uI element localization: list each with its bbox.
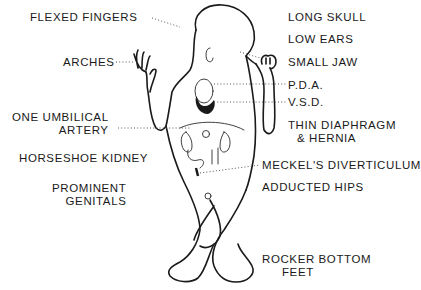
right-arm-outline — [256, 64, 275, 134]
label-text: SMALL JAW — [288, 56, 358, 69]
right-torso-outline — [246, 56, 256, 190]
meckels-diverticulum-mark — [196, 168, 198, 176]
leader-small-jaw — [240, 52, 260, 58]
diaphragm-line — [180, 122, 244, 130]
label-text: FEET — [262, 266, 371, 279]
label-text: ROCKER BOTTOM — [262, 253, 371, 266]
right-fist-flexed — [261, 55, 276, 68]
label-rocker-bottom-feet: ROCKER BOTTOM FEET — [262, 253, 371, 279]
label-text: HORSESHOE KIDNEY — [19, 152, 148, 165]
label-text: ONE UMBILICAL — [12, 111, 109, 124]
label-flexed-fingers: FLEXED FINGERS — [30, 11, 137, 24]
label-text: V.S.D. — [288, 96, 324, 109]
umbilicus — [203, 131, 210, 138]
label-text: ARCHES — [63, 56, 115, 69]
label-text: THIN DIAPHRAGM — [288, 119, 396, 132]
ear-drawing — [206, 48, 213, 62]
label-thin-diaphragm-hernia: THIN DIAPHRAGM & HERNIA — [288, 119, 396, 145]
label-one-umbilical-artery: ONE UMBILICAL ARTERY — [12, 111, 109, 137]
label-text: ARTERY — [12, 124, 109, 137]
intestine-loops — [188, 148, 218, 168]
label-text: & HERNIA — [288, 132, 396, 145]
label-text: P.D.A. — [288, 79, 323, 92]
heart-shaded-ventricle — [196, 96, 215, 114]
kidney-left — [181, 132, 192, 152]
label-prominent-genitals: PROMINENT GENITALS — [52, 182, 126, 208]
label-text: PROMINENT — [52, 182, 126, 195]
head-outline — [195, 5, 256, 64]
kidney-right — [220, 132, 230, 152]
label-text: FLEXED FINGERS — [30, 11, 137, 24]
leader-flexed-fingers — [152, 18, 180, 27]
label-vsd: V.S.D. — [288, 96, 324, 109]
label-long-skull: LONG SKULL — [288, 11, 366, 24]
left-hand-open — [134, 50, 156, 92]
label-text: MECKEL'S DIVERTICULUM — [262, 159, 421, 172]
label-arches: ARCHES — [63, 56, 115, 69]
right-leg-outline — [213, 190, 253, 282]
label-text: LONG SKULL — [288, 11, 366, 24]
genitals-drawing — [205, 193, 211, 199]
label-horseshoe-kidney: HORSESHOE KIDNEY — [19, 152, 148, 165]
label-text: LOW EARS — [288, 33, 354, 46]
label-text: GENITALS — [52, 195, 126, 208]
label-adducted-hips: ADDUCTED HIPS — [262, 181, 364, 194]
label-pda: P.D.A. — [288, 79, 323, 92]
label-meckels-diverticulum: MECKEL'S DIVERTICULUM — [262, 159, 421, 172]
label-low-ears: LOW EARS — [288, 33, 354, 46]
label-small-jaw: SMALL JAW — [288, 56, 358, 69]
left-leg-outline — [166, 126, 214, 282]
label-text: ADDUCTED HIPS — [262, 181, 364, 194]
